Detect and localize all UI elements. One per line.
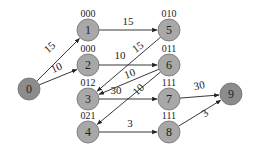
edge-weight-label: 30	[193, 78, 207, 92]
node-label: 9	[228, 87, 234, 101]
node-code-label: 111	[162, 77, 176, 88]
node-label: 8	[166, 125, 172, 139]
node-code-label: 000	[81, 43, 96, 54]
node-code-label: 012	[81, 77, 96, 88]
node-1: 1000	[77, 8, 99, 41]
node-label: 1	[85, 23, 91, 37]
edge-7-9	[180, 95, 219, 98]
node-6: 6011	[158, 43, 180, 76]
edge-weight-label: 15	[123, 15, 135, 27]
edge-labels-layer: 15101510151010303303	[41, 15, 211, 129]
edge-weight-label: 15	[130, 38, 146, 54]
edge-weight-label: 10	[49, 59, 64, 75]
node-label: 3	[85, 92, 91, 106]
edge-weight-label: 3	[198, 106, 210, 119]
node-code-label: 000	[81, 8, 96, 19]
node-label: 2	[85, 58, 91, 72]
edge-weight-label: 30	[111, 84, 123, 96]
node-label: 6	[166, 58, 172, 72]
node-5: 5010	[158, 8, 180, 41]
graph-diagram: 15101510151010303303 0100020003012402150…	[0, 0, 260, 151]
node-label: 4	[85, 125, 91, 139]
node-2: 2000	[77, 43, 99, 76]
node-code-label: 021	[81, 110, 96, 121]
node-0: 0	[18, 78, 40, 100]
edge-weight-label: 3	[127, 117, 133, 129]
node-7: 7111	[158, 77, 180, 110]
node-3: 3012	[77, 77, 99, 110]
edge-8-9	[178, 100, 220, 126]
node-label: 7	[166, 92, 172, 106]
node-label: 5	[166, 23, 172, 37]
node-9: 9	[220, 83, 242, 105]
graph-canvas: 15101510151010303303 0100020003012402150…	[0, 0, 260, 151]
edge-weight-label: 15	[41, 39, 58, 56]
node-4: 4021	[77, 110, 99, 143]
node-label: 0	[26, 82, 32, 96]
node-8: 8111	[158, 110, 180, 143]
node-code-label: 111	[162, 110, 176, 121]
node-code-label: 010	[162, 8, 177, 19]
edge-weight-label: 10	[122, 66, 137, 81]
node-code-label: 011	[162, 43, 177, 54]
edge-weight-label: 10	[115, 49, 127, 61]
